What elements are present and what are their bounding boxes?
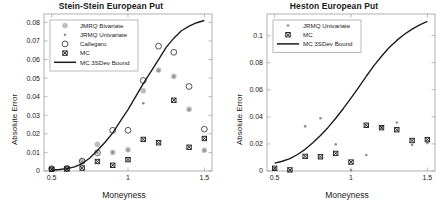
legend-label: Callegaro — [80, 40, 107, 47]
x-tick-label: 0.5 — [47, 174, 57, 181]
y-tick-label: 0.02 — [26, 130, 40, 137]
series-jrmq-univariate — [273, 117, 428, 172]
legend-label: MC — [303, 31, 313, 38]
x-tick-label: 1.5 — [199, 174, 209, 181]
y-tick-label: 0.02 — [249, 140, 263, 147]
plot-area-right: 00.020.040.060.080.10.511.5JRMQ Univaria… — [223, 0, 445, 214]
x-tick-label: 0.5 — [270, 174, 280, 181]
y-tick-label: 0.08 — [249, 59, 263, 66]
y-tick-label: 0.06 — [249, 86, 263, 93]
legend-label: MC — [80, 49, 90, 56]
panel-stein-stein: Stein-Stein European Put Absolute Error … — [0, 0, 222, 214]
figure-container: Stein-Stein European Put Absolute Error … — [0, 0, 445, 214]
legend-label: MC 3SDev Bound — [80, 59, 130, 66]
plot-area-left: 00.010.020.030.040.050.060.070.080.511.5… — [0, 0, 222, 214]
series-mc — [272, 123, 429, 172]
y-tick-label: 0 — [36, 167, 40, 174]
y-tick-label: 0.01 — [26, 149, 40, 156]
y-tick-label: 0.07 — [26, 37, 40, 44]
x-tick-label: 1 — [349, 174, 353, 181]
y-tick-label: 0.08 — [26, 19, 40, 26]
series-jmrq-bivariate — [49, 68, 207, 172]
y-tick-label: 0.05 — [26, 75, 40, 82]
x-tick-label: 1.5 — [422, 174, 432, 181]
y-tick-label: 0.03 — [26, 112, 40, 119]
y-tick-label: 0.04 — [249, 113, 263, 120]
panel-heston: Heston European Put Absolute Error Money… — [223, 0, 445, 214]
y-tick-label: 0.06 — [26, 56, 40, 63]
y-tick-label: 0 — [259, 167, 263, 174]
y-tick-label: 0.04 — [26, 93, 40, 100]
legend-label: JMRQ Bivariate — [80, 22, 124, 29]
legend-label: JRMQ Univariate — [80, 31, 128, 38]
y-tick-label: 0.1 — [253, 32, 263, 39]
series-jrmq-univariate — [50, 69, 205, 170]
legend-label: MC 3SDev Bound — [303, 40, 353, 47]
x-tick-label: 1 — [126, 174, 130, 181]
legend-label: JRMQ Univariate — [303, 22, 351, 29]
